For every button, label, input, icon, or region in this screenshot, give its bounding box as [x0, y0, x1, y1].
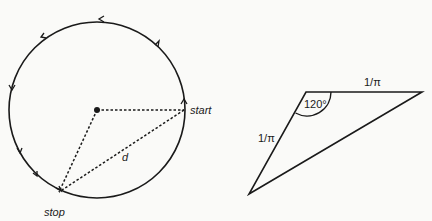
circle-figure: start stop d — [9, 16, 212, 218]
arrow-icon — [41, 33, 46, 38]
stop-label: stop — [44, 206, 65, 218]
angle-label: 120° — [304, 98, 327, 110]
side-top-label: 1/π — [364, 76, 381, 88]
distance-label: d — [122, 151, 129, 163]
triangle-figure: 120° 1/π 1/π — [249, 76, 422, 194]
side-left-label: 1/π — [258, 132, 275, 144]
start-label: start — [190, 104, 212, 116]
diagram-canvas: start stop d 120° 1/π 1/π — [0, 0, 432, 221]
triangle — [249, 92, 422, 194]
direction-arrows — [9, 16, 187, 191]
arrow-icon — [99, 16, 104, 22]
